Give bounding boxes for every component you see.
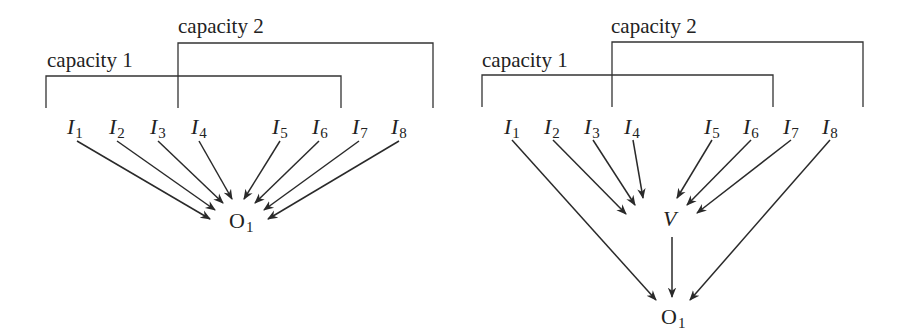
arrow-icon [199, 141, 232, 199]
left-diagram: capacity 2 capacity 1 I1 I2 I3 I4 I5 I6 … [46, 14, 433, 235]
right-diagram: capacity 2 capacity 1 I1 I2 I3 I4 I5 I6 … [482, 14, 863, 331]
arrow-icon [244, 141, 280, 199]
input-node-i8: I8 [390, 114, 407, 141]
output-node-o1: O1 [661, 304, 685, 331]
input-node-i5: I5 [271, 114, 288, 141]
capacity-2-bracket: capacity 2 [611, 14, 863, 107]
arrow-icon [553, 140, 626, 214]
input-node-i7: I7 [351, 114, 368, 141]
arrow-icon [268, 141, 399, 219]
input-node-i6: I6 [311, 114, 328, 141]
input-node-i1: I1 [66, 114, 83, 141]
input-node-i4: I4 [623, 114, 640, 141]
capacity-diagrams: capacity 2 capacity 1 I1 I2 I3 I4 I5 I6 … [0, 0, 901, 335]
input-node-i8: I8 [821, 114, 838, 141]
input-nodes: I1 I2 I3 I4 I5 I6 I7 I8 [66, 114, 407, 141]
arrow-icon [264, 141, 359, 210]
output-node-o1: O1 [229, 208, 253, 235]
input-node-i3: I3 [149, 114, 166, 141]
input-node-i4: I4 [190, 114, 207, 141]
arrow-icon [697, 140, 791, 213]
capacity-2-label: capacity 2 [178, 14, 264, 38]
input-node-i7: I7 [782, 114, 799, 141]
input-node-i2: I2 [108, 114, 125, 141]
capacity-1-bracket: capacity 1 [46, 48, 341, 108]
capacity-1-label: capacity 1 [482, 48, 568, 72]
capacity-2-label: capacity 2 [611, 14, 697, 38]
hidden-node-v: V [663, 206, 679, 231]
capacity-1-bracket: capacity 1 [482, 48, 773, 107]
input-node-i6: I6 [742, 114, 759, 141]
edges-to-hidden [553, 140, 791, 214]
input-nodes: I1 I2 I3 I4 I5 I6 I7 I8 [503, 114, 838, 141]
arrow-icon [633, 140, 643, 198]
arrow-icon [593, 140, 635, 205]
arrow-icon [677, 140, 712, 198]
arrow-icon [512, 140, 656, 300]
input-node-i1: I1 [503, 114, 520, 141]
arrow-icon [77, 141, 210, 219]
input-node-i2: I2 [543, 114, 560, 141]
capacity-1-label: capacity 1 [47, 48, 133, 72]
arrow-icon [117, 141, 215, 210]
capacity-2-bracket: capacity 2 [178, 14, 433, 108]
input-node-i3: I3 [583, 114, 600, 141]
input-node-i5: I5 [703, 114, 720, 141]
